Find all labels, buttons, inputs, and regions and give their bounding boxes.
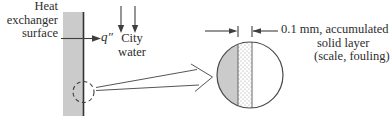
thickness-dimension: [205, 26, 278, 37]
wall-region-magnified: [215, 40, 238, 110]
magnify-callout-arrow: [96, 64, 213, 92]
fouling-dimension-label-line3: (scale, fouling): [314, 50, 390, 64]
fouling-layer: [238, 40, 252, 110]
heat-exchanger-wall: [63, 12, 84, 116]
magnified-view-circle: [215, 40, 283, 110]
figure-canvas: Heat exchanger surface q″ City water 0.1…: [0, 0, 392, 122]
city-water-arrow-left: [118, 6, 124, 33]
city-water-arrow-right: [132, 6, 138, 33]
fouling-dimension-label-line1: 0.1 mm, accumulated: [281, 23, 389, 37]
city-water-label: City water: [106, 32, 158, 59]
heat-exchanger-surface-label: Heat exchanger surface: [0, 0, 58, 41]
